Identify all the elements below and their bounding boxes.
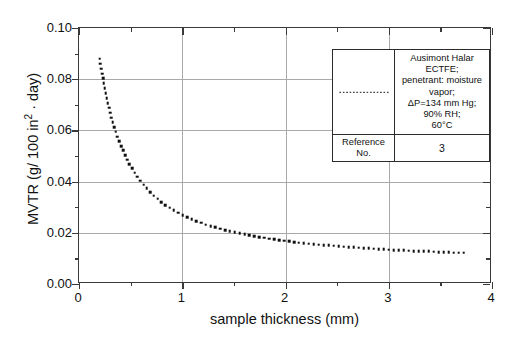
y-tick-label: 0.02 — [32, 225, 72, 238]
series-data-point — [377, 248, 380, 251]
series-data-point — [105, 97, 108, 100]
series-data-point — [108, 107, 111, 110]
series-data-point — [253, 235, 256, 238]
y-axis-tick-major — [72, 79, 79, 80]
y-tick-label: 0.10 — [32, 21, 72, 34]
y-tick-label: 0.08 — [32, 72, 72, 85]
series-data-point — [417, 250, 420, 253]
series-data-point — [149, 191, 152, 194]
series-data-point — [342, 245, 345, 248]
series-data-point — [352, 246, 355, 249]
series-data-point — [177, 212, 180, 215]
series-data-point — [112, 121, 115, 124]
x-tick-label-group: 01234 — [78, 291, 491, 309]
series-data-point — [248, 234, 251, 237]
series-data-point — [110, 116, 113, 119]
series-data-point — [102, 77, 105, 80]
series-data-point — [422, 250, 425, 253]
series-data-point — [168, 206, 171, 209]
series-data-point — [367, 247, 370, 250]
legend-reference-label-cell: Reference No. — [333, 135, 395, 161]
legend-swatch-cell — [333, 50, 395, 134]
x-tick-label: 0 — [58, 291, 98, 304]
series-data-point — [107, 102, 110, 105]
series-data-point — [109, 111, 112, 114]
series-data-point — [160, 201, 163, 204]
legend-reference-label: Reference No. — [336, 137, 391, 159]
legend-description-line: ΔP=134 mm Hg; 90% RH; — [399, 98, 485, 120]
series-data-point — [452, 251, 455, 254]
series-data-point — [156, 198, 159, 201]
series-data-point — [152, 194, 155, 197]
series-data-point — [432, 250, 435, 253]
series-data-point — [283, 239, 286, 242]
series-data-point — [118, 140, 121, 143]
series-data-point — [427, 250, 430, 253]
y-axis-tick-major — [72, 182, 79, 183]
series-data-point — [204, 223, 207, 226]
series-data-point — [372, 247, 375, 250]
series-data-point — [313, 243, 316, 246]
series-data-point — [268, 237, 271, 240]
legend-description-text: Ausimont Halar ECTFE;penetrant: moisture… — [399, 53, 485, 131]
y-tick-label: 0.06 — [32, 123, 72, 136]
dotted-line-swatch-icon — [339, 91, 389, 94]
series-data-point — [327, 244, 330, 247]
x-tick-label: 1 — [161, 291, 201, 304]
series-data-point — [120, 145, 123, 148]
chart-figure: MVTR (g/ 100 in2 · day) 0.000.020.040.06… — [0, 0, 528, 344]
series-data-point — [303, 242, 306, 245]
y-tick-label: 0.00 — [32, 277, 72, 290]
series-data-point — [347, 246, 350, 249]
series-data-point — [447, 251, 450, 254]
series-data-point — [181, 214, 184, 217]
legend-description-line: penetrant: moisture vapor; — [399, 75, 485, 97]
series-data-point — [142, 183, 145, 186]
series-data-point — [116, 135, 119, 138]
series-data-point — [200, 222, 203, 225]
series-data-point — [145, 187, 148, 190]
series-data-point — [126, 158, 129, 161]
series-data-point — [128, 163, 131, 166]
series-data-point — [362, 247, 365, 250]
x-axis-tick-minor — [234, 282, 235, 286]
legend-description-cell: Ausimont Halar ECTFE;penetrant: moisture… — [395, 50, 489, 134]
series-data-point — [133, 171, 136, 174]
series-data-point — [243, 233, 246, 236]
series-data-point — [229, 230, 232, 233]
series-data-point — [407, 249, 410, 252]
x-axis-tick-major — [79, 282, 80, 289]
series-data-point — [100, 67, 103, 70]
series-data-point — [317, 243, 320, 246]
series-data-point — [103, 87, 106, 90]
series-data-point — [104, 92, 107, 95]
series-data-point — [238, 232, 241, 235]
series-data-point — [322, 244, 325, 247]
legend-row-series: Ausimont Halar ECTFE;penetrant: moisture… — [333, 50, 489, 135]
series-data-point — [273, 238, 276, 241]
y-axis-tick-major — [72, 130, 79, 131]
series-data-point — [258, 236, 261, 239]
series-data-point — [98, 57, 101, 60]
series-data-point — [357, 246, 360, 249]
x-tick-label: 3 — [368, 291, 408, 304]
series-data-point — [392, 249, 395, 252]
series-data-point — [288, 240, 291, 243]
legend-reference-value-cell: 3 — [395, 135, 489, 161]
series-data-point — [136, 175, 139, 178]
series-data-point — [124, 154, 127, 157]
series-data-point — [462, 252, 465, 255]
y-axis-tick-major — [72, 233, 79, 234]
y-tick-label: 0.04 — [32, 174, 72, 187]
series-data-point — [233, 231, 236, 234]
series-data-point — [173, 209, 176, 212]
x-axis-tick-major — [286, 282, 287, 289]
legend-box: Ausimont Halar ECTFE;penetrant: moisture… — [332, 49, 490, 162]
series-data-point — [332, 245, 335, 248]
series-data-point — [195, 220, 198, 223]
series-data-point — [113, 126, 116, 129]
series-data-point — [437, 251, 440, 254]
x-axis-tick-major — [492, 282, 493, 289]
series-data-point — [186, 216, 189, 219]
x-axis-tick-major-top — [492, 28, 493, 35]
